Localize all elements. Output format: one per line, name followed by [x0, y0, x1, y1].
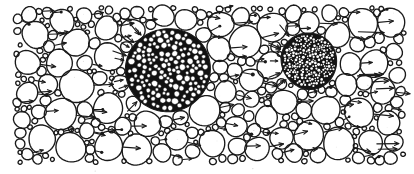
agglomerate-subparticle — [147, 95, 150, 98]
agglomerate-subparticle — [317, 80, 319, 82]
agglomerate-subparticle — [326, 68, 328, 70]
agglomerate-subparticle — [156, 93, 161, 98]
agglomerate-subparticle — [306, 51, 308, 53]
agglomerate-subparticle — [151, 71, 157, 76]
tracer-dot — [27, 22, 30, 25]
agglomerate-subparticle — [151, 91, 155, 96]
agglomerate-subparticle — [192, 49, 198, 54]
agglomerate-subparticle — [330, 52, 332, 54]
scan-speckle — [91, 63, 92, 64]
agglomerate-subparticle — [186, 65, 189, 68]
agglomerate-subparticle — [314, 52, 317, 55]
agglomerate-subparticle — [323, 49, 326, 52]
scan-speckle — [154, 111, 155, 112]
particle-dispersion-figure: Hand-drawn particle dispersion / agglome… — [0, 0, 414, 174]
agglomerate-subparticle — [142, 70, 146, 74]
scan-speckle — [404, 154, 405, 155]
agglomerate-subparticle — [169, 72, 173, 75]
agglomerate-subparticle — [147, 58, 151, 61]
agglomerate-subparticle — [328, 57, 330, 59]
agglomerate-subparticle — [312, 48, 315, 51]
agglomerate-subparticle — [168, 105, 173, 110]
scan-speckle — [379, 145, 380, 146]
agglomerate-subparticle — [310, 67, 313, 70]
scan-speckle — [370, 63, 371, 64]
agglomerate-subparticle — [181, 59, 185, 63]
agglomerate-subparticle — [322, 69, 324, 71]
agglomerate-subparticle — [292, 71, 294, 73]
agglomerate-subparticle — [166, 39, 170, 43]
agglomerate-subparticle — [299, 56, 301, 58]
agglomerate-subparticle — [315, 50, 317, 52]
agglomerate-subparticle — [298, 53, 300, 55]
scan-speckle — [66, 75, 67, 76]
scan-speckle — [109, 117, 110, 118]
agglomerate-subparticle — [170, 37, 174, 41]
agglomerate-subparticle — [194, 55, 199, 60]
agglomerate-subparticle — [163, 88, 167, 92]
agglomerate-subparticle — [327, 43, 329, 45]
agglomerate-subparticle — [297, 71, 299, 73]
agglomerate-subparticle — [162, 92, 165, 95]
scan-speckle — [313, 118, 314, 119]
agglomerate-subparticle — [142, 65, 147, 69]
agglomerate-subparticle — [311, 51, 313, 53]
scan-speckle — [343, 48, 344, 49]
agglomerate-subparticle — [136, 79, 139, 82]
scan-speckle — [340, 107, 341, 108]
agglomerate-subparticle — [176, 55, 181, 59]
agglomerate-subparticle — [284, 68, 285, 69]
agglomerate-subparticle — [328, 62, 330, 64]
agglomerate-subparticle — [296, 40, 298, 42]
agglomerate-subparticle — [139, 91, 143, 95]
agglomerate-subparticle — [146, 48, 152, 53]
agglomerate-subparticle — [181, 99, 184, 102]
agglomerate-subparticle — [318, 59, 321, 62]
scan-speckle — [367, 85, 368, 86]
agglomerate-subparticle — [168, 43, 171, 47]
agglomerate-subparticle — [202, 80, 205, 84]
agglomerate-subparticle — [331, 72, 332, 73]
agglomerate-subparticle — [311, 78, 314, 81]
agglomerate-subparticle — [286, 53, 288, 55]
agglomerate-subparticle — [330, 49, 331, 50]
agglomerate-subparticle — [326, 56, 329, 59]
agglomerate-subparticle — [162, 105, 167, 110]
agglomerate-subparticle — [306, 80, 308, 82]
agglomerate-subparticle — [311, 71, 313, 73]
agglomerate-subparticle — [322, 61, 325, 64]
agglomerate-subparticle — [319, 54, 322, 57]
agglomerate-subparticle — [298, 49, 300, 51]
scan-speckle — [387, 127, 388, 128]
agglomerate-subparticle — [332, 68, 334, 70]
agglomerate-subparticle — [186, 39, 192, 45]
agglomerate-subparticle — [315, 78, 317, 80]
agglomerate-subparticle — [303, 82, 305, 84]
agglomerate-subparticle — [162, 30, 166, 33]
agglomerate-subparticle — [333, 58, 334, 59]
agglomerate-subparticle — [315, 74, 318, 77]
agglomerate-subparticle — [309, 54, 312, 57]
agglomerate-subparticle — [133, 51, 137, 54]
agglomerate-subparticle — [189, 87, 194, 92]
agglomerate-subparticle — [296, 66, 298, 68]
scan-speckle — [337, 117, 338, 118]
agglomerate-subparticle — [197, 70, 203, 76]
agglomerate-subparticle — [317, 63, 320, 66]
agglomerate-subparticle — [156, 105, 160, 109]
agglomerate-subparticle — [309, 80, 311, 82]
agglomerate-subparticle — [329, 73, 331, 75]
agglomerate-subparticle — [148, 68, 151, 71]
tracer-dot — [264, 60, 267, 63]
agglomerate-subparticle — [312, 59, 313, 60]
agglomerate-subparticle — [151, 53, 154, 56]
agglomerate-subparticle — [176, 70, 180, 74]
agglomerate-subparticle — [311, 73, 313, 75]
agglomerate-subparticle — [142, 84, 145, 88]
agglomerate-subparticle — [295, 59, 298, 62]
agglomerate-subparticle — [143, 46, 146, 49]
agglomerate-subparticle — [333, 65, 335, 67]
agglomerate-subparticle — [159, 51, 164, 56]
agglomerate-subparticle — [321, 58, 323, 60]
tracer-dot — [267, 131, 270, 134]
